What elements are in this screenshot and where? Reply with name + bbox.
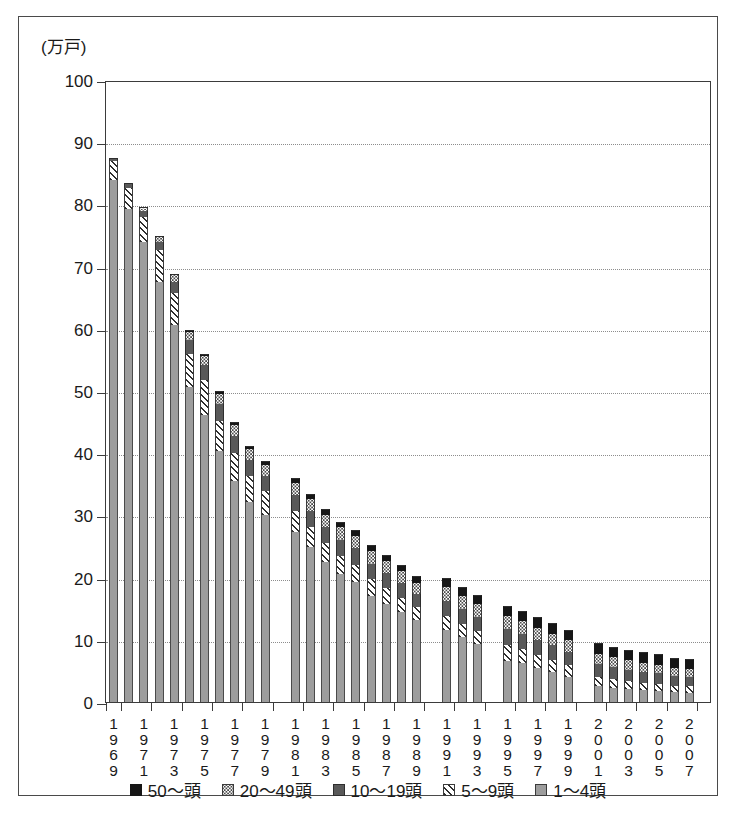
- bar-segment: [382, 588, 391, 604]
- x-axis-tick: [182, 702, 183, 711]
- bar-segment: [124, 188, 133, 209]
- bar-segment: [261, 476, 270, 491]
- bar: [624, 650, 633, 702]
- y-axis-tick: [97, 331, 106, 332]
- bar-segment: [155, 242, 164, 251]
- bar-segment: [609, 688, 618, 702]
- y-axis-tick-label: 40: [74, 445, 93, 465]
- y-axis-tick-label: 60: [74, 321, 93, 341]
- gridline: [106, 580, 710, 581]
- bar: [109, 158, 118, 702]
- bar-segment: [245, 502, 254, 702]
- bar-segment: [685, 669, 694, 677]
- bar-segment: [336, 574, 345, 702]
- bar-segment: [351, 582, 360, 702]
- bar: [155, 236, 164, 702]
- x-axis-tick: [454, 702, 455, 711]
- y-axis-tick-label: 10: [74, 632, 93, 652]
- bar-segment: [412, 594, 421, 607]
- bar-segment: [564, 630, 573, 641]
- bar: [412, 576, 421, 702]
- bar-segment: [685, 659, 694, 669]
- x-axis-tick-label: 2003: [621, 716, 637, 778]
- x-axis-tick-label: 2007: [681, 716, 697, 778]
- bar-segment: [397, 583, 406, 597]
- bar-segment: [185, 332, 194, 340]
- bar-segment: [548, 672, 557, 702]
- bar-segment: [442, 630, 451, 702]
- gridline: [106, 144, 710, 145]
- bar: [548, 623, 557, 702]
- bar-segment: [473, 644, 482, 702]
- bar-segment: [215, 421, 224, 451]
- bar: [609, 647, 618, 702]
- bar-segment: [367, 579, 376, 595]
- bar-segment: [594, 677, 603, 686]
- bar-segment: [639, 672, 648, 683]
- chart-legend: 50～頭20～49頭10～19頭5～9頭1～4頭: [19, 777, 717, 802]
- bar: [170, 274, 179, 702]
- x-axis-tick-label: 1979: [257, 716, 273, 778]
- x-axis-tick-label: 1989: [409, 716, 425, 778]
- x-axis-tick-label: 1971: [136, 716, 152, 778]
- bar-segment: [306, 527, 315, 546]
- x-axis-tick-label: 1999: [560, 716, 576, 778]
- y-axis-tick: [97, 82, 106, 83]
- bar: [139, 207, 148, 702]
- x-axis-tick-label: 1977: [227, 716, 243, 778]
- y-axis-tick-label: 100: [65, 72, 93, 92]
- x-axis-tick: [273, 702, 274, 711]
- x-axis-tick-label: 1987: [378, 716, 394, 778]
- bar-segment: [397, 612, 406, 702]
- bar-segment: [594, 664, 603, 676]
- bar-segment: [609, 679, 618, 688]
- bar-segment: [139, 217, 148, 242]
- legend-item: 20～49頭: [222, 777, 312, 802]
- x-axis-tick: [394, 702, 395, 711]
- bar-segment: [670, 668, 679, 676]
- gridline: [106, 331, 710, 332]
- bar-segment: [624, 681, 633, 689]
- bar: [200, 354, 209, 702]
- bar-segment: [458, 596, 467, 609]
- bar-segment: [245, 449, 254, 460]
- bar: [351, 530, 360, 702]
- bar-segment: [336, 540, 345, 556]
- bar-segment: [533, 668, 542, 702]
- bar-segment: [458, 587, 467, 596]
- plot-area: 0102030405060708090100 19691971197319751…: [105, 81, 711, 703]
- bar-segment: [518, 649, 527, 663]
- bar-segment: [245, 460, 254, 476]
- bar-segment: [442, 587, 451, 601]
- bar: [291, 478, 300, 702]
- y-axis-tick-label: 90: [74, 134, 93, 154]
- bar-segment: [624, 650, 633, 661]
- y-axis-tick: [97, 144, 106, 145]
- bar-segment: [200, 356, 209, 365]
- bar-segment: [367, 551, 376, 563]
- bar-segment: [533, 640, 542, 655]
- x-axis-tick-label: 1973: [166, 716, 182, 778]
- y-axis-tick-label: 50: [74, 383, 93, 403]
- bar: [503, 606, 512, 702]
- gridline: [106, 206, 710, 207]
- bar: [670, 658, 679, 702]
- bar-segment: [139, 242, 148, 702]
- x-axis-tick: [697, 702, 698, 711]
- bar-segment: [382, 561, 391, 573]
- bar-segment: [473, 617, 482, 631]
- bar-segment: [170, 325, 179, 702]
- y-axis-tick-label: 30: [74, 507, 93, 527]
- bar-segment: [624, 689, 633, 702]
- bar: [685, 659, 694, 702]
- bar: [321, 509, 330, 702]
- bar: [261, 461, 270, 702]
- bar-segment: [351, 536, 360, 548]
- bar: [124, 183, 133, 702]
- bar-segment: [382, 573, 391, 588]
- x-axis-tick: [333, 702, 334, 711]
- bar: [639, 652, 648, 702]
- x-axis-tick: [576, 702, 577, 711]
- bar-segment: [109, 180, 118, 702]
- bar-segment: [109, 161, 118, 180]
